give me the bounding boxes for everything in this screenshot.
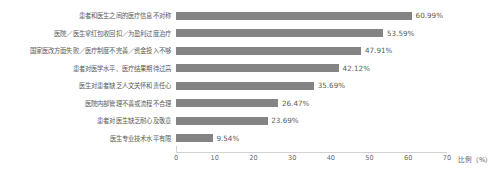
x-tick-label: 10 <box>211 154 219 162</box>
bar <box>176 134 213 142</box>
bar-track: 60.99% <box>176 7 447 25</box>
bar-row: 医生专业技术水平有限9.54% <box>0 130 500 148</box>
bar-track: 26.47% <box>176 95 447 113</box>
bar-value-label: 42.12% <box>339 60 370 78</box>
category-label: 医院／医生拿红包收回扣／为盈利过度治疗 <box>0 25 171 43</box>
category-label: 患者对医学水平、医疗结果期待过高 <box>0 60 171 78</box>
bar-row: 患者对医学水平、医疗结果期待过高42.12% <box>0 60 500 78</box>
bar <box>176 29 383 37</box>
bar-value-label: 53.59% <box>383 25 414 43</box>
bar-row: 医院／医生拿红包收回扣／为盈利过度治疗53.59% <box>0 25 500 43</box>
bar-track: 23.69% <box>176 112 447 130</box>
bar-track: 35.69% <box>176 77 447 95</box>
bar <box>176 47 361 55</box>
bar-row: 国家医改方面失败／医疗制度不完善／资金投入不够47.91% <box>0 42 500 60</box>
bar-track: 9.54% <box>176 130 447 148</box>
category-label: 国家医改方面失败／医疗制度不完善／资金投入不够 <box>0 42 171 60</box>
bar-value-label: 35.69% <box>314 77 345 95</box>
bar <box>176 82 314 90</box>
bar-row: 患者对医生缺乏耐心及敬意23.69% <box>0 112 500 130</box>
bar-row: 医生对患者缺乏人文关怀和责任心35.69% <box>0 77 500 95</box>
category-label: 医院内部管理不善或流程不合理 <box>0 95 171 113</box>
x-tick-label: 50 <box>365 154 373 162</box>
x-axis-line <box>176 152 447 153</box>
bar-value-label: 26.47% <box>278 95 309 113</box>
bar <box>176 117 268 125</box>
category-label: 患者和医生之间的医疗信息不对称 <box>0 7 171 25</box>
x-tick-label: 0 <box>174 154 178 162</box>
x-axis-title: 比例（%） <box>458 154 492 164</box>
category-label: 患者对医生缺乏耐心及敬意 <box>0 112 171 130</box>
bar <box>176 64 339 72</box>
bar <box>176 99 278 107</box>
bar-row: 患者和医生之间的医疗信息不对称60.99% <box>0 7 500 25</box>
bar-value-label: 60.99% <box>412 7 443 25</box>
bar-value-label: 47.91% <box>361 42 392 60</box>
bar-row: 医院内部管理不善或流程不合理26.47% <box>0 95 500 113</box>
bar-track: 53.59% <box>176 25 447 43</box>
x-tick-label: 20 <box>249 154 257 162</box>
bar-track: 42.12% <box>176 60 447 78</box>
bar-track: 47.91% <box>176 42 447 60</box>
x-tick-label: 70 <box>443 154 451 162</box>
horizontal-bar-chart: 010203040506070 比例（%） 患者和医生之间的医疗信息不对称60.… <box>0 0 500 180</box>
x-tick-label: 30 <box>288 154 296 162</box>
category-label: 医生对患者缺乏人文关怀和责任心 <box>0 77 171 95</box>
bar-value-label: 9.54% <box>213 130 239 148</box>
x-tick-label: 40 <box>327 154 335 162</box>
bar-value-label: 23.69% <box>268 112 299 130</box>
x-tick-label: 60 <box>404 154 412 162</box>
category-label: 医生专业技术水平有限 <box>0 130 171 148</box>
bar <box>176 12 412 20</box>
